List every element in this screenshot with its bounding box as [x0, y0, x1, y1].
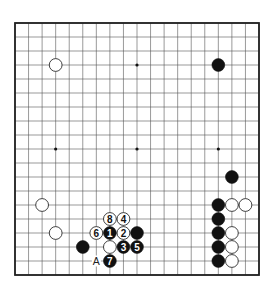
white-stone-6: 6: [90, 227, 103, 240]
white-stone: [49, 59, 62, 72]
black-stone-3: 3: [117, 241, 130, 254]
black-stone-7: 7: [103, 255, 116, 268]
move-number: 5: [134, 242, 140, 253]
go-board: 84612357 A: [0, 0, 276, 293]
move-number: 4: [121, 214, 127, 225]
star-point: [217, 147, 220, 150]
white-stone: [225, 227, 238, 240]
white-stone: [225, 255, 238, 268]
white-stone: [36, 199, 49, 212]
star-point: [135, 147, 138, 150]
move-number: 3: [121, 242, 127, 253]
white-stone: [225, 199, 238, 212]
white-stone-2: 2: [117, 227, 130, 240]
black-stone: [225, 171, 238, 184]
black-stone: [212, 59, 225, 72]
star-point: [135, 63, 138, 66]
black-stone-1: 1: [103, 227, 116, 240]
white-stone-4: 4: [117, 213, 130, 226]
markers-layer: A: [92, 255, 101, 267]
white-stone: [239, 199, 252, 212]
white-stone: [225, 241, 238, 254]
white-stone: [49, 227, 62, 240]
move-number: 2: [121, 228, 127, 239]
move-number: 8: [107, 214, 113, 225]
black-stone: [131, 227, 144, 240]
black-stone: [212, 213, 225, 226]
white-stone-8: 8: [103, 213, 116, 226]
black-stone: [212, 241, 225, 254]
move-number: 7: [107, 256, 113, 267]
move-number: 6: [94, 228, 100, 239]
black-stone: [212, 199, 225, 212]
black-stone-5: 5: [131, 241, 144, 254]
black-stone: [212, 255, 225, 268]
star-point: [54, 147, 57, 150]
white-stone: [103, 241, 116, 254]
point-label-a: A: [93, 255, 100, 267]
black-stone: [212, 227, 225, 240]
move-number: 1: [107, 228, 113, 239]
go-board-diagram: 84612357 A: [0, 0, 276, 293]
black-stone: [76, 241, 89, 254]
